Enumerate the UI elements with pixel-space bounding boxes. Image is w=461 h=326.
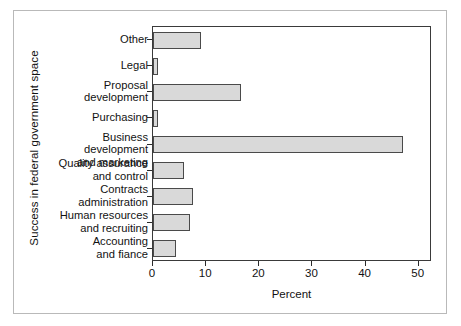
category-tick <box>147 222 152 223</box>
bar <box>153 188 193 205</box>
x-axis-tick-label: 30 <box>291 267 331 279</box>
category-label: Accounting and fiance <box>36 235 148 260</box>
figure: Success in federal government space Othe… <box>0 0 461 326</box>
x-axis-tick-label: 0 <box>132 267 172 279</box>
plot-area <box>152 26 431 261</box>
category-tick <box>147 248 152 249</box>
x-axis-tick <box>205 261 206 266</box>
category-axis-labels: OtherLegalProposal developmentPurchasing… <box>36 26 148 261</box>
bar <box>153 110 158 127</box>
bar <box>153 84 241 101</box>
x-axis-tick-label: 50 <box>398 267 438 279</box>
category-label: Purchasing <box>36 111 148 124</box>
category-tick <box>147 196 152 197</box>
x-axis-tick <box>258 261 259 266</box>
x-axis-tick <box>311 261 312 266</box>
category-label: Other <box>36 33 148 46</box>
category-tick <box>147 117 152 118</box>
category-tick <box>147 39 152 40</box>
x-axis-tick-label: 20 <box>238 267 278 279</box>
bar <box>153 58 158 75</box>
x-axis-tick-label: 40 <box>345 267 385 279</box>
x-axis-tick <box>418 261 419 266</box>
category-tick <box>147 144 152 145</box>
x-axis-tick <box>365 261 366 266</box>
bar <box>153 214 190 231</box>
bar <box>153 32 201 49</box>
category-label: Human resources and recruiting <box>36 209 148 234</box>
x-axis-tick <box>152 261 153 266</box>
category-label: Quality assurance and control <box>36 157 148 182</box>
category-tick <box>147 91 152 92</box>
category-label: Legal <box>36 59 148 72</box>
x-axis-title: Percent <box>152 288 431 300</box>
bar <box>153 162 184 179</box>
x-axis-tick-label: 10 <box>185 267 225 279</box>
category-label: Contracts administration <box>36 183 148 208</box>
category-label: Proposal development <box>36 79 148 104</box>
bar <box>153 240 176 257</box>
bar <box>153 136 403 153</box>
category-tick <box>147 65 152 66</box>
category-tick <box>147 170 152 171</box>
